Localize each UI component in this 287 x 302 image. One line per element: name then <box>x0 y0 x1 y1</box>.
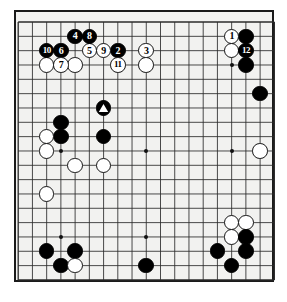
move-number-label: 11 <box>114 60 122 69</box>
black-stone-marked <box>96 100 112 116</box>
move-number-label: 8 <box>87 31 92 41</box>
black-stone <box>53 115 69 131</box>
white-stone <box>238 215 254 231</box>
move-number-label: 10 <box>43 46 51 55</box>
move-number-label: 4 <box>73 31 78 41</box>
move-stone-11: 11 <box>110 57 126 73</box>
move-number-label: 7 <box>59 60 64 70</box>
move-stone-6: 6 <box>53 43 69 59</box>
black-stone <box>238 229 254 245</box>
white-stone <box>39 143 55 159</box>
move-number-label: 9 <box>101 46 106 56</box>
black-stone <box>67 243 83 259</box>
star-point <box>230 149 234 153</box>
white-stone <box>39 186 55 202</box>
move-stone-7: 7 <box>53 57 69 73</box>
star-point <box>59 235 63 239</box>
move-number-label: 5 <box>87 46 92 56</box>
black-stone <box>210 243 226 259</box>
triangle-marker-icon <box>98 103 109 113</box>
move-number-label: 2 <box>116 46 121 56</box>
move-stone-12: 12 <box>238 43 254 59</box>
black-stone <box>238 243 254 259</box>
star-point <box>59 149 63 153</box>
star-point <box>230 63 234 67</box>
white-stone <box>138 57 154 73</box>
move-stone-2: 2 <box>110 43 126 59</box>
move-number-label: 1 <box>229 31 234 41</box>
black-stone <box>238 57 254 73</box>
move-stone-8: 8 <box>82 29 98 45</box>
go-diagram: 123456789101112 <box>0 0 287 302</box>
white-stone <box>252 143 268 159</box>
move-number-label: 3 <box>144 46 149 56</box>
move-number-label: 6 <box>59 46 64 56</box>
white-stone <box>67 158 83 174</box>
white-stone <box>67 57 83 73</box>
black-stone <box>238 29 254 45</box>
move-number-label: 12 <box>242 46 250 55</box>
move-stone-4: 4 <box>67 29 83 45</box>
black-stone <box>53 129 69 145</box>
